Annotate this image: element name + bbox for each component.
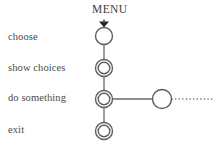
- node-choose[interactable]: [96, 28, 113, 45]
- node-choose-outer-circle: [96, 28, 113, 45]
- entry-arrow-icon: [99, 22, 109, 28]
- node-exit[interactable]: [96, 123, 113, 140]
- entry-arrow-group: [99, 20, 109, 28]
- node-do-something[interactable]: [96, 91, 113, 108]
- node-branch[interactable]: [153, 90, 172, 109]
- edges-group: [104, 45, 214, 123]
- node-branch-outer-circle: [153, 90, 172, 109]
- diagram-canvas: MENU choose show choices do something ex…: [0, 0, 214, 149]
- diagram-graph: [0, 0, 214, 149]
- nodes-group: [96, 28, 172, 140]
- node-show-choices[interactable]: [96, 60, 113, 77]
